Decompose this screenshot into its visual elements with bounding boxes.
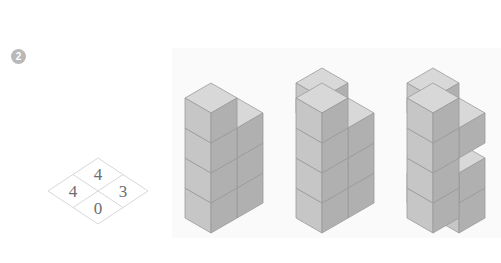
- figure-b-left-column: [296, 83, 348, 233]
- page-root: 2 4 4 3 0: [0, 0, 501, 263]
- figure-a-left-column: [185, 83, 237, 233]
- plan-cell-right-value: 3: [119, 182, 128, 201]
- question-number-badge: 2: [11, 49, 26, 64]
- plan-grid: 4 4 3 0: [42, 152, 154, 230]
- figures-panel: [172, 48, 501, 238]
- plan-cell-left-value: 4: [69, 182, 78, 201]
- figure-c: [407, 68, 485, 233]
- plan-cell-bottom-value: 0: [94, 199, 103, 218]
- figure-c-left-column: [407, 83, 459, 233]
- figure-a: [185, 83, 263, 233]
- figure-b: [296, 68, 374, 233]
- plan-cell-top-value: 4: [94, 165, 103, 184]
